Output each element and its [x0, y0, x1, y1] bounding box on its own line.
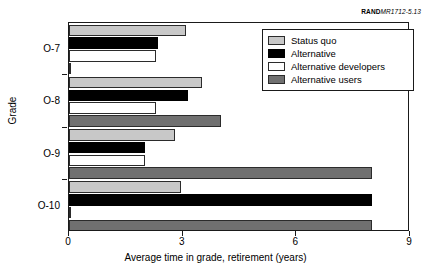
- bar-o-10-alternative-developers: [69, 207, 71, 219]
- y-tick-label-o-9: O-9: [43, 147, 60, 158]
- bar-o-7-alternative-developers: [69, 50, 156, 62]
- rand-logo-text: RAND: [361, 8, 380, 15]
- bar-o-9-status-quo: [69, 129, 175, 141]
- legend-swatch-icon-alternative-users: [268, 75, 285, 84]
- chart-figure: RANDMR1712-5.13 Grade O-7O-8O-9O-10 0369…: [0, 0, 431, 270]
- legend-item-status-quo[interactable]: Status quo: [268, 34, 408, 47]
- legend-label: Alternative users: [291, 74, 362, 85]
- legend-item-alternative-users[interactable]: Alternative users: [268, 73, 408, 86]
- legend-item-alternative[interactable]: Alternative: [268, 47, 408, 60]
- y-tick-mark-3: [62, 179, 67, 180]
- bar-o-8-alternative-users: [69, 115, 221, 127]
- bar-o-8-alternative: [69, 90, 188, 102]
- y-tick-label-o-10: O-10: [38, 199, 60, 210]
- y-tick-mark-2: [62, 127, 67, 128]
- y-tick-mark-1: [62, 74, 67, 75]
- bar-o-9-alternative-users: [69, 167, 372, 179]
- bar-o-7-alternative: [69, 37, 158, 49]
- x-tick-label-6: 6: [280, 236, 310, 247]
- x-tick-label-0: 0: [53, 236, 83, 247]
- bar-o-7-alternative-users: [69, 63, 71, 75]
- legend-swatch-icon-alternative-developers: [268, 62, 285, 71]
- y-axis-tick-labels: O-7O-8O-9O-10: [0, 22, 66, 231]
- bar-o-8-status-quo: [69, 77, 202, 89]
- legend-label: Alternative developers: [291, 61, 385, 72]
- legend-swatch-icon-alternative: [268, 49, 285, 58]
- bar-o-9-alternative-developers: [69, 155, 145, 167]
- x-axis-tick-labels: 0369: [0, 236, 431, 250]
- bar-o-7-status-quo: [69, 25, 186, 37]
- source-credit: RANDMR1712-5.13: [361, 8, 421, 15]
- bar-o-8-alternative-developers: [69, 102, 156, 114]
- legend-label: Status quo: [291, 35, 336, 46]
- x-axis-title: Average time in grade, retirement (years…: [0, 252, 431, 263]
- chart-legend: Status quoAlternativeAlternative develop…: [262, 29, 414, 91]
- bar-o-10-alternative: [69, 194, 372, 206]
- x-tick-label-3: 3: [167, 236, 197, 247]
- x-tick-label-9: 9: [394, 236, 424, 247]
- bar-o-10-alternative-users: [69, 220, 372, 231]
- y-tick-label-o-7: O-7: [43, 43, 60, 54]
- y-tick-label-o-8: O-8: [43, 95, 60, 106]
- legend-label: Alternative: [291, 48, 336, 59]
- bar-o-10-status-quo: [69, 181, 181, 193]
- bar-o-9-alternative: [69, 142, 145, 154]
- rand-report-code: MR1712-5.13: [381, 8, 421, 15]
- legend-item-alternative-developers[interactable]: Alternative developers: [268, 60, 408, 73]
- legend-swatch-icon-status-quo: [268, 36, 285, 45]
